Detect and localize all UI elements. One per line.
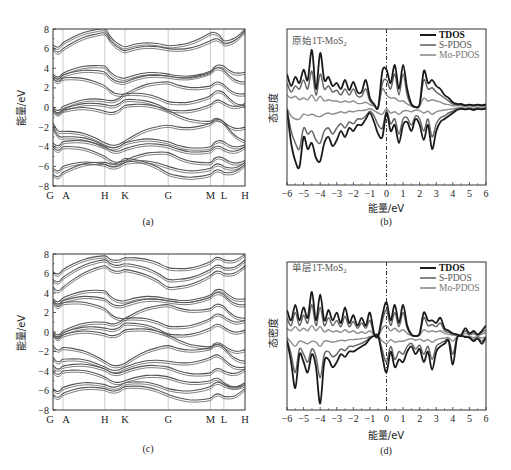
band-line	[53, 289, 245, 301]
x-tick-label: −5	[298, 413, 309, 424]
k-point-label: H	[241, 414, 249, 425]
dos-panel-d: −6−5−4−3−2−10123456TDOSS-PDOSMo-PDOS	[282, 262, 489, 424]
band-line	[53, 31, 245, 52]
y-tick-label: −4	[38, 366, 49, 377]
y-tick-label: 2	[44, 307, 49, 318]
x-tick-label: −1	[365, 188, 376, 199]
xlabel-d: 能量/eV	[368, 429, 405, 441]
y-tick-label: 8	[44, 249, 49, 260]
x-tick-label: 0	[384, 413, 389, 424]
k-point-label: A	[62, 414, 70, 425]
x-tick-label: 6	[484, 188, 489, 199]
inset-label-b: 原始1T-MoS2	[292, 35, 347, 48]
k-point-label: H	[241, 190, 249, 201]
x-tick-label: −3	[331, 413, 342, 424]
x-tick-label: −2	[348, 188, 359, 199]
k-point-label: G	[164, 190, 172, 201]
y-tick-label: 0	[44, 102, 49, 113]
inset-label-d: 单层1T-MoS2	[292, 262, 347, 275]
x-tick-label: 4	[450, 188, 455, 199]
y-tick-label: 8	[44, 24, 49, 35]
y-tick-label: −6	[38, 385, 49, 396]
k-point-label: G	[46, 190, 54, 201]
y-tick-label: −6	[38, 161, 49, 172]
band-line	[53, 127, 245, 148]
k-point-label: L	[221, 190, 227, 201]
ylabel-c: 能量/eV	[15, 315, 27, 352]
band-line	[53, 366, 245, 376]
figure-canvas: −8−6−4−202468GAHKGMLH −6−5−4−3−2−1012345…	[0, 0, 511, 470]
legend-label: Mo-PDOS	[439, 283, 480, 293]
x-tick-label: 6	[484, 413, 489, 424]
ylabel-b: 态密度	[267, 93, 279, 123]
legend-label: S-PDOS	[439, 273, 472, 283]
x-tick-label: −1	[365, 413, 376, 424]
x-tick-label: −4	[315, 413, 326, 424]
band-structure-panel-a: −8−6−4−202468GAHKGMLH	[38, 24, 249, 202]
k-point-label: H	[101, 190, 109, 201]
band-line	[53, 384, 245, 394]
k-point-label: G	[164, 414, 172, 425]
x-tick-label: −5	[298, 188, 309, 199]
x-tick-label: 5	[467, 413, 472, 424]
dos-curve	[287, 305, 486, 337]
legend-label: TDOS	[439, 263, 465, 273]
x-tick-label: −6	[282, 413, 293, 424]
x-tick-label: −4	[315, 188, 326, 199]
y-tick-label: 0	[44, 327, 49, 338]
k-point-label: M	[206, 190, 216, 201]
legend-label: S-PDOS	[439, 40, 472, 50]
x-tick-label: 0	[384, 188, 389, 199]
band-line	[53, 33, 245, 54]
band-line	[53, 329, 245, 351]
y-tick-label: −2	[38, 122, 49, 133]
band-structure-panel-c: −8−6−4−202468GAHKGMLH	[38, 249, 249, 426]
k-point-label: L	[221, 414, 227, 425]
x-tick-label: 4	[450, 413, 455, 424]
caption-a: (a)	[142, 216, 153, 228]
band-line	[53, 65, 245, 78]
k-point-label: K	[121, 414, 129, 425]
y-tick-label: −2	[38, 346, 49, 357]
band-line	[53, 304, 245, 321]
ylabel-d: 态密度	[267, 318, 279, 348]
xlabel-b: 能量/eV	[368, 202, 405, 214]
band-line	[53, 104, 245, 128]
k-point-label: G	[46, 414, 54, 425]
x-tick-label: 3	[434, 413, 439, 424]
caption-c: (c)	[142, 443, 153, 455]
x-tick-label: −3	[331, 188, 342, 199]
y-tick-label: −4	[38, 141, 49, 152]
legend-label: Mo-PDOS	[439, 50, 480, 60]
x-tick-label: 1	[401, 413, 406, 424]
caption-d: (d)	[380, 445, 392, 457]
x-tick-label: 5	[467, 188, 472, 199]
x-tick-label: −2	[348, 413, 359, 424]
k-point-label: A	[62, 190, 70, 201]
x-tick-label: 2	[417, 188, 422, 199]
y-tick-label: 6	[44, 43, 49, 54]
legend-label: TDOS	[439, 30, 465, 40]
band-line	[53, 386, 245, 400]
ylabel-a: 能量/eV	[15, 90, 27, 127]
x-tick-label: −6	[282, 188, 293, 199]
caption-b: (b)	[380, 216, 392, 228]
k-point-label: K	[121, 190, 129, 201]
dos-panel-b: −6−5−4−3−2−10123456TDOSS-PDOSMo-PDOS	[282, 29, 489, 199]
k-point-label: H	[101, 414, 109, 425]
y-tick-label: 4	[44, 63, 49, 74]
band-line	[53, 388, 245, 402]
x-tick-label: 1	[401, 188, 406, 199]
y-tick-label: 6	[44, 268, 49, 279]
x-tick-label: 2	[417, 413, 422, 424]
y-tick-label: 2	[44, 82, 49, 93]
x-tick-label: 3	[434, 188, 439, 199]
k-point-label: M	[206, 414, 216, 425]
y-tick-label: 4	[44, 288, 49, 299]
